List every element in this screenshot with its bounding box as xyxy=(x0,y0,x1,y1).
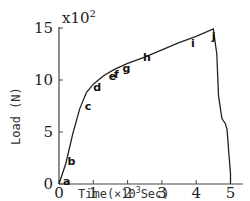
point-label-d: d xyxy=(93,81,101,94)
point-label-j: j xyxy=(211,30,216,43)
x-tick-label: 5 xyxy=(226,184,236,201)
point-label-c: c xyxy=(85,100,92,113)
y-multiplier: x102 xyxy=(62,8,96,27)
x-axis-label: Time(×103Sec) xyxy=(78,186,170,201)
point-labels: abcdefghij xyxy=(63,30,215,188)
y-tick-label: 10 xyxy=(34,71,53,89)
point-label-f: f xyxy=(114,68,119,81)
load-time-chart: 012345051015 abcdefghij x102 Time(×103Se… xyxy=(0,0,250,201)
point-label-a: a xyxy=(63,175,70,188)
y-tick-label: 5 xyxy=(43,123,53,141)
y-tick-label: 15 xyxy=(34,19,53,37)
x-tick-label: 4 xyxy=(191,184,201,201)
point-label-h: h xyxy=(143,51,151,64)
point-label-b: b xyxy=(68,155,76,168)
y-axis-label: Load (N) xyxy=(9,87,23,145)
axes: 012345051015 xyxy=(34,19,243,201)
point-label-i: i xyxy=(191,37,195,50)
point-label-g: g xyxy=(122,62,130,75)
y-tick-label: 0 xyxy=(43,175,53,193)
